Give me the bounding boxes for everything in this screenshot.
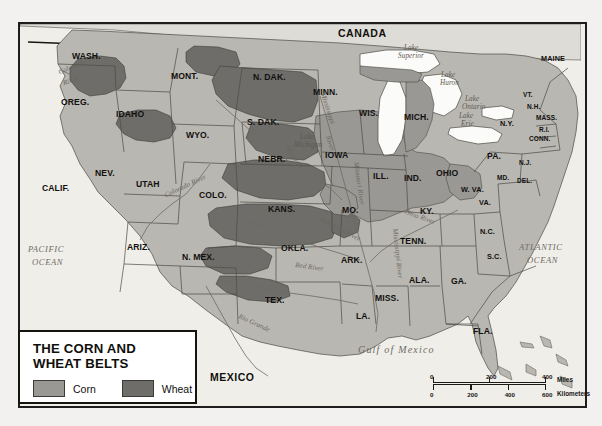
state-label-tex: TEX. [265,296,285,305]
scale-km-num-1: 200 [467,391,477,398]
legend-keys: Corn Wheat [33,380,195,397]
state-label-vt: VT. [523,92,533,99]
state-label-wis: WIS. [359,109,378,118]
scale-km-num-2: 400 [505,391,515,398]
corn-swatch [33,380,65,397]
scale-km-line [433,384,545,385]
scale-km-num-3: 600 [542,391,552,398]
state-label-nev: NEV. [95,169,115,178]
state-label-ga: GA. [451,277,467,286]
state-label-va: VA. [479,199,491,206]
state-label-utah: UTAH [136,180,160,189]
state-label-nebr: NEBR. [258,155,285,164]
state-label-colo: COLO. [199,191,227,200]
legend-title-line2: WHEAT BELTS [33,356,195,371]
state-label-idaho: IDAHO [116,110,144,119]
ocean-label-ocean: OCEAN [32,258,63,267]
state-label-sc: S.C. [487,253,502,260]
state-label-mass: MASS. [536,115,557,122]
state-label-pa: PA. [487,152,501,161]
scale-km-num-0: 0 [430,391,433,398]
state-label-wash: WASH. [72,52,101,61]
state-label-ny: N.Y. [500,120,514,127]
scale-miles-num-0: 0 [430,373,433,380]
map-scale-bar: 0200400Miles0200400600Kilometers [433,373,573,399]
state-label-ndak: N. DAK. [253,73,286,82]
state-label-ind: IND. [404,174,422,183]
legend-title-line1: THE CORN AND [33,341,195,356]
state-label-nj: N.J. [519,160,531,167]
ocean-label-atlantic: ATLANTIC [519,243,563,252]
state-label-ala: ALA. [409,276,429,285]
legend-key-wheat[interactable]: Wheat [122,380,192,397]
state-label-sdak: S. DAK. [247,118,279,127]
state-label-tenn: TENN. [400,237,426,246]
state-label-nc: N.C. [480,228,495,235]
country-label-mexico: MEXICO [210,372,254,383]
map-screenshot: WASH.OREG.IDAHOMONT.WYO.N. DAK.S. DAK.NE… [0,0,602,426]
country-label-canada: CANADA [338,28,387,39]
state-label-la: LA. [356,312,370,321]
wheat-swatch [122,380,154,397]
state-label-ri: R.I. [539,127,550,134]
state-label-calif: CALIF. [42,184,69,193]
legend-title: THE CORN AND WHEAT BELTS [33,341,195,371]
state-label-ohio: OHIO [436,169,458,178]
state-label-kans: KANS. [268,205,295,214]
state-label-conn: CONN. [529,136,550,143]
lake-label-ontario: Ontario [462,104,485,111]
state-label-oreg: OREG. [61,98,89,107]
ocean-label-pacific: PACIFIC [28,245,64,254]
state-label-maine: MAINE [541,55,565,62]
state-label-ariz: ARIZ. [127,243,150,252]
state-label-fla: FLA. [473,327,493,336]
scale-km-tick-0 [433,384,434,390]
legend-key-corn[interactable]: Corn [33,380,96,397]
state-label-mont: MONT. [171,72,198,81]
state-label-mo: MO. [342,206,359,215]
ocean-label-ocean: OCEAN [527,256,558,265]
scale-km-tick-2 [508,384,509,390]
map-legend: THE CORN AND WHEAT BELTS Corn Wheat [18,330,197,404]
state-label-ill: ILL. [373,172,389,181]
state-label-okla: OKLA. [281,244,308,253]
state-label-nh: N.H. [527,104,540,111]
scale-km-unit: Kilometers [557,390,590,397]
state-label-miss: MISS. [375,294,399,303]
lake-label-huron: Huron [440,80,459,87]
scale-miles-num-1: 200 [486,373,496,380]
corn-label: Corn [73,383,96,395]
state-label-wva: W. VA. [461,186,484,193]
state-label-nmex: N. MEX. [182,253,215,262]
ocean-label-gulfofmexico: Gulf of Mexico [358,345,435,355]
scale-miles-num-2: 400 [542,373,552,380]
lake-label-superior: Superior [398,53,424,60]
lake-label-erie: Erie [461,121,474,128]
state-label-wyo: WYO. [186,131,209,140]
state-label-del: DEL. [517,178,532,185]
wheat-label: Wheat [162,383,192,395]
scale-km-tick-1 [470,384,471,390]
state-label-md: MD. [497,175,509,182]
scale-km-tick-3 [545,384,546,390]
state-label-mich: MICH. [404,113,429,122]
scale-miles-unit: Miles [557,376,573,383]
state-label-ark: ARK. [341,256,362,265]
lake-label-michigan: Michigan [294,142,322,149]
